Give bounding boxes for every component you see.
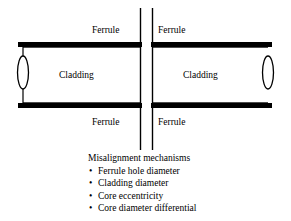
label-cladding-right: Cladding (183, 71, 218, 81)
list-item: • Core diameter differential (88, 202, 288, 214)
bullet-icon: • (89, 177, 92, 189)
label-ferrule-bottom-right: Ferrule (158, 118, 185, 128)
list-item-label: Core eccentricity (98, 191, 163, 201)
ferrule-wall-top-left (18, 42, 142, 47)
bullet-icon: • (89, 202, 92, 214)
bullet-icon: • (89, 190, 92, 202)
cylinder-right-end-cap (263, 56, 274, 89)
label-ferrule-top-left: Ferrule (92, 26, 119, 36)
cylinder-left-end-cap (18, 56, 29, 89)
caption-heading: Misalignment mechanisms (88, 152, 288, 164)
caption-block: Misalignment mechanisms • Ferrule hole d… (88, 152, 288, 215)
list-item-label: Cladding diameter (98, 178, 168, 188)
ferrule-wall-bottom-right (151, 103, 272, 108)
label-ferrule-bottom-left: Ferrule (92, 118, 119, 128)
label-ferrule-top-right: Ferrule (158, 26, 185, 36)
figure-canvas: Ferrule Ferrule Ferrule Ferrule Cladding… (0, 0, 291, 221)
list-item-label: Core diameter differential (98, 203, 196, 213)
list-item: • Core eccentricity (88, 190, 288, 202)
list-item: • Cladding diameter (88, 177, 288, 189)
list-item: • Ferrule hole diameter (88, 165, 288, 177)
label-cladding-left: Cladding (59, 71, 94, 81)
list-item-label: Ferrule hole diameter (98, 166, 180, 176)
misalignment-mechanisms-list: • Ferrule hole diameter • Cladding diame… (88, 165, 288, 215)
ferrule-wall-top-right (151, 42, 272, 47)
bullet-icon: • (89, 165, 92, 177)
ferrule-wall-bottom-left (18, 103, 142, 108)
